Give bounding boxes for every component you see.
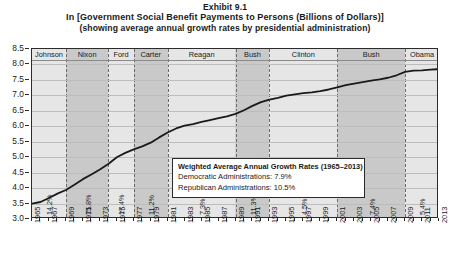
x-axis-tick-label: 1969 [68, 207, 75, 223]
x-axis-tick-label: 2003 [356, 207, 363, 223]
x-axis-tick-mark [201, 218, 202, 221]
x-axis-tick-mark [31, 218, 32, 221]
y-axis-tick-label: 7.5 [12, 75, 24, 83]
x-axis-tick-label: 1987 [221, 207, 228, 223]
x-axis-tick-label: 2011 [424, 207, 431, 223]
y-axis: 8.58.07.57.06.56.05.55.04.54.03.53.0 [0, 48, 29, 218]
y-axis-tick-mark [25, 94, 29, 95]
y-axis-tick-label: 7.0 [12, 90, 24, 98]
y-axis-tick-mark [25, 187, 29, 188]
y-axis-tick-mark [25, 218, 29, 219]
y-axis-tick-label: 3.0 [12, 214, 24, 222]
x-axis-tick-label: 1965 [34, 207, 41, 223]
chart-title-block: Exhibit 9.1 In [Government Social Benefi… [0, 0, 450, 34]
y-axis-tick-mark [25, 172, 29, 173]
legend-republican: Republican Administrations: 10.5% [178, 183, 359, 194]
chart-page: Exhibit 9.1 In [Government Social Benefi… [0, 0, 450, 255]
y-axis-tick-label: 3.5 [12, 198, 24, 206]
x-axis-tick-label: 1981 [170, 207, 177, 223]
y-axis-tick-mark [25, 203, 29, 204]
x-axis-tick-label: 1995 [288, 207, 295, 223]
chart-title: In [Government Social Benefit Payments t… [0, 12, 450, 23]
x-axis-tick-mark [218, 218, 219, 221]
y-axis-tick-mark [25, 125, 29, 126]
x-axis-tick-label: 1983 [187, 207, 194, 223]
legend-title: Weighted Average Annual Growth Rates (19… [178, 162, 359, 172]
legend-democratic: Democratic Administrations: 7.9% [178, 172, 359, 183]
x-axis-tick-label: 1997 [305, 207, 312, 223]
y-axis-tick-label: 4.0 [12, 183, 24, 191]
x-axis-tick-label: 1989 [238, 207, 245, 223]
x-axis-tick-mark [99, 218, 100, 221]
x-axis-tick-mark [167, 218, 168, 221]
x-axis-tick-label: 1975 [119, 207, 126, 223]
x-axis-tick-mark [48, 218, 49, 221]
x-axis-tick-label: 1967 [51, 207, 58, 223]
x-axis-tick-label: 2001 [339, 207, 346, 223]
y-axis-tick-label: 6.0 [12, 121, 24, 129]
x-axis-tick-mark [133, 218, 134, 221]
x-axis-tick-mark [438, 218, 439, 221]
x-axis-tick-mark [150, 218, 151, 221]
y-axis-tick-mark [25, 110, 29, 111]
x-axis-tick-label: 2007 [390, 207, 397, 223]
y-axis-tick-mark [25, 156, 29, 157]
y-axis-tick-label: 8.5 [12, 44, 24, 52]
y-axis-tick-label: 4.5 [12, 167, 24, 175]
x-axis-tick-label: 1979 [153, 207, 160, 223]
x-axis-tick-label: 1985 [204, 207, 211, 223]
y-axis-tick-mark [25, 63, 29, 64]
x-axis-tick-label: 1999 [322, 207, 329, 223]
y-axis-tick-label: 8.0 [12, 59, 24, 67]
x-axis-tick-mark [235, 218, 236, 221]
x-axis-tick-label: 1993 [271, 207, 278, 223]
x-axis: 1965196719691971197319751977197919811983… [31, 218, 438, 254]
x-axis-tick-label: 1971 [85, 207, 92, 223]
x-axis-tick-mark [82, 218, 83, 221]
x-axis-tick-mark [184, 218, 185, 221]
y-axis-tick-mark [25, 79, 29, 80]
x-axis-tick-label: 1977 [136, 207, 143, 223]
x-axis-tick-mark [421, 218, 422, 221]
y-axis-tick-label: 5.5 [12, 137, 24, 145]
x-axis-tick-label: 2013 [441, 207, 448, 223]
x-axis-tick-mark [116, 218, 117, 221]
x-axis-tick-mark [370, 218, 371, 221]
x-axis-tick-mark [387, 218, 388, 221]
chart-subtitle: (showing average annual growth rates by … [0, 23, 450, 34]
legend-box: Weighted Average Annual Growth Rates (19… [172, 158, 365, 198]
x-axis-tick-label: 1973 [102, 207, 109, 223]
y-axis-tick-label: 5.0 [12, 152, 24, 160]
x-axis-tick-label: 1991 [254, 207, 261, 223]
x-axis-tick-mark [404, 218, 405, 221]
y-axis-tick-mark [25, 141, 29, 142]
x-axis-tick-mark [65, 218, 66, 221]
x-axis-tick-label: 2009 [407, 207, 414, 223]
y-axis-tick-label: 6.5 [12, 106, 24, 114]
y-axis-tick-mark [25, 48, 29, 49]
exhibit-number: Exhibit 9.1 [0, 2, 450, 12]
x-axis-tick-label: 2005 [373, 207, 380, 223]
